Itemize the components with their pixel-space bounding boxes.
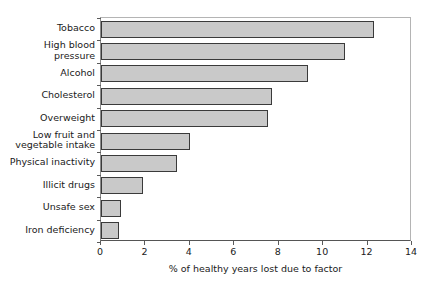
y-axis-tick — [97, 130, 101, 131]
bar — [101, 200, 121, 217]
y-axis-tick — [97, 18, 101, 19]
x-axis-tick-label: 4 — [186, 246, 192, 257]
bar-chart: TobaccoHigh blood pressureAlcoholCholest… — [0, 0, 432, 287]
y-axis-label: Illicit drugs — [0, 174, 100, 196]
y-axis-label-text: Cholesterol — [4, 90, 100, 101]
x-axis-tick-label: 8 — [275, 246, 281, 257]
y-axis-label: Cholesterol — [0, 84, 100, 106]
y-axis-tick — [97, 108, 101, 109]
x-axis-tick-label: 10 — [316, 246, 328, 257]
y-axis-label: High blood pressure — [0, 39, 100, 61]
x-axis-tick-label: 2 — [141, 246, 147, 257]
bar-row — [101, 40, 410, 62]
bar-row — [101, 152, 410, 174]
y-axis-label-text: Iron deficiency — [4, 225, 100, 236]
y-axis-label-text: Low fruit and vegetable intake — [4, 130, 100, 151]
bar — [101, 43, 345, 60]
x-axis-tick-label: 0 — [97, 246, 103, 257]
y-axis-label: Unsafe sex — [0, 196, 100, 218]
plot-area — [100, 17, 411, 241]
y-axis-tick — [97, 85, 101, 86]
bar-row — [101, 220, 410, 242]
y-axis-label-text: Illicit drugs — [4, 180, 100, 191]
bar-row — [101, 175, 410, 197]
x-axis-tick — [367, 241, 368, 245]
x-axis-tick — [100, 241, 101, 245]
y-axis-tick — [97, 197, 101, 198]
bar — [101, 222, 119, 239]
y-axis-label-text: Overweight — [4, 113, 100, 124]
x-axis-tick-label: 14 — [405, 246, 417, 257]
chart-title — [100, 0, 411, 12]
bar-row — [101, 63, 410, 85]
x-axis-tick — [322, 241, 323, 245]
y-axis-label: Overweight — [0, 107, 100, 129]
y-axis-tick — [97, 220, 101, 221]
y-axis-label: Alcohol — [0, 62, 100, 84]
x-axis-tick — [411, 241, 412, 245]
y-axis-tick — [97, 40, 101, 41]
bar-row — [101, 85, 410, 107]
y-axis-tick — [97, 63, 101, 64]
bar — [101, 155, 177, 172]
bar — [101, 88, 272, 105]
bar — [101, 65, 308, 82]
y-axis-label-text: Tobacco — [4, 23, 100, 34]
y-axis-label: Physical inactivity — [0, 151, 100, 173]
bar — [101, 110, 268, 127]
x-axis-tick-label: 12 — [361, 246, 373, 257]
bar-row — [101, 18, 410, 40]
x-axis-tick — [278, 241, 279, 245]
y-axis-category-labels: TobaccoHigh blood pressureAlcoholCholest… — [0, 17, 100, 241]
y-axis-label: Low fruit and vegetable intake — [0, 129, 100, 151]
x-axis: % of healthy years lost due to factor 02… — [100, 241, 411, 281]
x-axis-tick-label: 6 — [230, 246, 236, 257]
bar-row — [101, 108, 410, 130]
y-axis-label: Iron deficiency — [0, 219, 100, 241]
x-axis-title: % of healthy years lost due to factor — [100, 263, 411, 274]
x-axis-tick — [189, 241, 190, 245]
y-axis-tick — [97, 175, 101, 176]
x-axis-tick — [144, 241, 145, 245]
y-axis-label-text: Physical inactivity — [4, 157, 100, 168]
y-axis-label: Tobacco — [0, 17, 100, 39]
bar-row — [101, 130, 410, 152]
bar-row — [101, 197, 410, 219]
bar — [101, 177, 143, 194]
y-axis-label-text: High blood pressure — [4, 40, 100, 61]
y-axis-tick — [97, 152, 101, 153]
y-axis-label-text: Alcohol — [4, 68, 100, 79]
y-axis-label-text: Unsafe sex — [4, 202, 100, 213]
bar — [101, 21, 374, 38]
bar — [101, 133, 190, 150]
x-axis-tick — [233, 241, 234, 245]
